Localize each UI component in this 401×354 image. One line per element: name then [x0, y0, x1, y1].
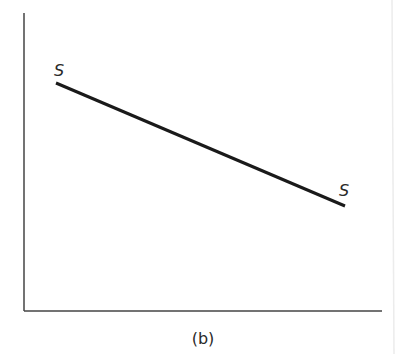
supply-curve-diagram: S S (b) — [0, 0, 401, 354]
label-s-end: S — [339, 181, 349, 200]
page-edge — [392, 0, 394, 354]
figure-caption: (b) — [192, 329, 215, 348]
supply-line — [56, 83, 345, 206]
label-s-start: S — [54, 61, 64, 80]
